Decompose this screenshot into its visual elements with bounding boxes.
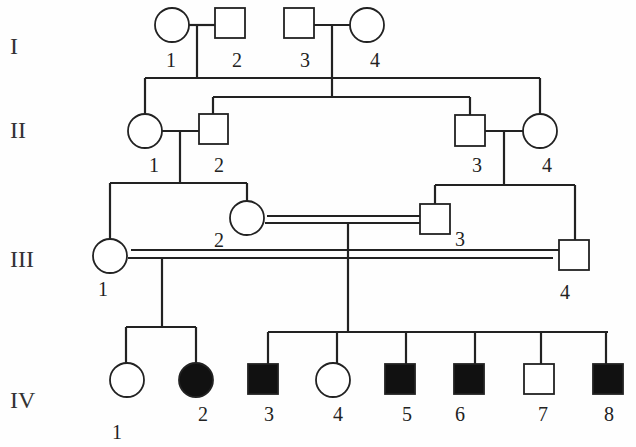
individual-IV-6-male-affected: [454, 364, 484, 394]
individual-number-IV-5: 5: [402, 404, 412, 424]
individual-number-I-2: 2: [232, 50, 242, 70]
individual-number-IV-7: 7: [538, 404, 548, 424]
individual-II-1-female: [128, 114, 162, 148]
individual-II-3-male: [455, 115, 485, 146]
generation-label-I: I: [10, 34, 18, 58]
generation-label-III: III: [10, 247, 34, 271]
individual-III-2-female: [230, 201, 264, 235]
individual-number-II-4: 4: [542, 155, 552, 175]
individual-IV-8-male-affected: [593, 364, 623, 394]
individual-number-II-3: 3: [472, 155, 482, 175]
individual-I-2-male: [215, 8, 245, 38]
individual-number-III-2: 2: [214, 230, 224, 250]
individual-number-III-4: 4: [560, 282, 570, 302]
individual-number-IV-4: 4: [333, 404, 343, 424]
individual-IV-4-female: [316, 363, 350, 397]
individual-number-IV-8: 8: [604, 404, 614, 424]
individual-III-1-female: [93, 239, 127, 273]
individual-number-IV-2: 2: [198, 404, 208, 424]
individual-IV-5-male-affected: [385, 364, 415, 394]
individual-number-IV-1: 1: [112, 422, 122, 442]
individual-number-I-1: 1: [166, 50, 176, 70]
individual-II-4-female: [523, 114, 557, 148]
individual-number-III-1: 1: [98, 279, 108, 299]
individual-I-4-female: [350, 8, 384, 42]
individual-number-IV-6: 6: [455, 404, 465, 424]
pedigree-diagram: I II III IV 1 2 3 4 1 2 3 4 1 2 3 4 1 2 …: [0, 0, 636, 447]
individual-number-I-4: 4: [370, 50, 380, 70]
individual-number-III-3: 3: [455, 229, 465, 249]
individual-IV-7-male: [524, 364, 554, 394]
individual-number-II-2: 2: [214, 155, 224, 175]
individual-IV-2-female-affected: [179, 363, 213, 397]
individual-III-3-male: [420, 204, 450, 234]
individual-I-3-male: [284, 8, 314, 38]
individual-III-4-male: [559, 240, 589, 270]
pedigree-lines: [0, 0, 636, 447]
individual-I-1-female: [155, 8, 189, 42]
generation-label-II: II: [10, 118, 26, 142]
individual-IV-1-female: [110, 363, 144, 397]
generation-label-IV: IV: [10, 388, 35, 412]
individual-number-IV-3: 3: [264, 404, 274, 424]
individual-number-I-3: 3: [300, 50, 310, 70]
individual-II-2-male: [199, 114, 228, 144]
individual-IV-3-male-affected: [248, 364, 278, 394]
individual-number-II-1: 1: [149, 155, 159, 175]
